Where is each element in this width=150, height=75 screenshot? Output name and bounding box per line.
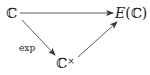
node-cx-superscript: × — [67, 56, 75, 66]
node-ec-function: E — [115, 5, 125, 21]
node-cx-label: ℂ — [56, 55, 67, 71]
node-ec: E(ℂ) — [115, 6, 147, 20]
node-c-label: ℂ — [6, 5, 17, 21]
node-cx: ℂ× — [56, 56, 75, 70]
edge-label-exp: exp — [19, 44, 35, 53]
node-ec-arg: (ℂ) — [125, 5, 147, 21]
arrow-cx-to-ec — [78, 22, 117, 57]
node-c: ℂ — [6, 6, 17, 20]
